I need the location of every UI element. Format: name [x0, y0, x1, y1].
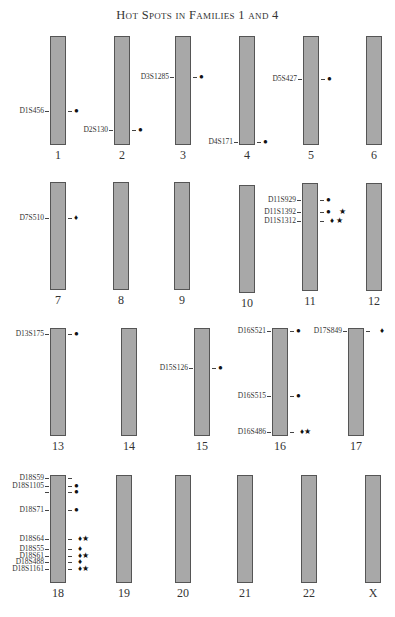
marker-tick-left	[45, 111, 49, 112]
marker-label: D16S515	[238, 392, 266, 400]
marker-tick-right	[68, 334, 72, 335]
marker-tick-right	[290, 331, 294, 332]
chromosome-10	[239, 185, 255, 293]
marker-symbols-icon: ●	[296, 327, 301, 335]
marker-tick-right	[193, 77, 197, 78]
chromosome-4	[239, 36, 255, 145]
marker-label: D3S1285	[141, 73, 169, 81]
chromosome-label: 12	[359, 294, 389, 309]
chromosome-label: 14	[114, 439, 144, 454]
marker-symbols-icon: ●	[138, 126, 143, 134]
chromosome-label: 6	[359, 148, 389, 163]
chromosome-1	[50, 36, 66, 145]
chromosome-2	[114, 36, 130, 145]
marker-tick-right	[290, 432, 294, 433]
marker-label: D5S427	[272, 75, 297, 83]
marker-tick-left	[45, 486, 49, 487]
chromosome-label: 4	[232, 148, 262, 163]
chromosome-label: 15	[187, 439, 217, 454]
marker-symbols-icon: ●	[74, 488, 79, 496]
marker-label: D18S1161	[12, 565, 44, 573]
chromosome-14	[121, 328, 137, 436]
marker-label: D11S1392	[264, 208, 296, 216]
chromosome-13	[50, 328, 66, 436]
marker-tick-right	[320, 221, 324, 222]
marker-label: D18S1105	[12, 482, 44, 490]
chromosome-17	[348, 328, 364, 436]
marker-tick-left	[109, 130, 113, 131]
marker-tick-left	[45, 492, 49, 493]
marker-tick-right	[68, 111, 72, 112]
marker-symbols-icon: ●	[218, 364, 223, 372]
marker-symbols-icon: ●	[326, 196, 331, 204]
marker-tick-left	[45, 562, 49, 563]
chromosome-8	[113, 182, 129, 290]
marker-symbols-icon: ♦★	[74, 565, 89, 573]
chromosome-label: 11	[295, 294, 325, 309]
marker-tick-left	[45, 510, 49, 511]
marker-label: D18S71	[19, 506, 44, 514]
chromosome-22	[301, 475, 317, 583]
marker-tick-left	[297, 221, 301, 222]
marker-tick-right	[68, 478, 72, 479]
chromosome-18	[50, 475, 66, 583]
marker-label: D1S456	[19, 107, 44, 115]
marker-symbols-icon: ♦ ★	[326, 217, 343, 225]
marker-symbols-icon: ♦	[74, 214, 78, 222]
chromosome-9	[174, 182, 190, 290]
marker-tick-right	[68, 492, 72, 493]
chromosome-21	[237, 475, 253, 583]
marker-tick-right	[68, 549, 72, 550]
marker-symbols-icon: ●	[74, 506, 79, 514]
chromosome-label: 22	[294, 586, 324, 601]
marker-label: D15S126	[160, 364, 188, 372]
marker-tick-right	[212, 368, 216, 369]
chromosome-label: 21	[230, 586, 260, 601]
marker-tick-right	[68, 218, 72, 219]
chromosome-16	[272, 328, 288, 436]
marker-symbols-icon: ●	[199, 73, 204, 81]
chromosome-label: 20	[168, 586, 198, 601]
chromosome-5	[303, 36, 319, 145]
chromosome-label: 19	[109, 586, 139, 601]
chromosome-6	[366, 36, 382, 145]
marker-label: D13S175	[16, 330, 44, 338]
marker-tick-right	[68, 562, 72, 563]
marker-tick-left	[45, 218, 49, 219]
figure-title: Hot Spots in Families 1 and 4	[0, 8, 395, 23]
marker-tick-left	[234, 142, 238, 143]
chromosome-19	[116, 475, 132, 583]
chromosome-label: X	[358, 586, 388, 601]
marker-tick-right	[132, 130, 136, 131]
marker-tick-left	[343, 331, 347, 332]
chromosome-7	[50, 182, 66, 290]
marker-tick-left	[298, 79, 302, 80]
marker-tick-right	[68, 486, 72, 487]
marker-tick-left	[267, 331, 271, 332]
chromosome-label: 7	[43, 293, 73, 308]
chromosome-label: 16	[265, 439, 295, 454]
marker-symbols-icon: ♦★	[296, 428, 311, 436]
chromosome-11	[302, 183, 318, 291]
chromosome-label: 3	[168, 148, 198, 163]
chromosome-label: 17	[341, 439, 371, 454]
marker-label: D4S171	[208, 138, 233, 146]
chromosome-20	[175, 475, 191, 583]
marker-symbols-icon: ●	[74, 330, 79, 338]
marker-tick-left	[297, 212, 301, 213]
marker-tick-right	[290, 396, 294, 397]
marker-label: D11S1312	[264, 217, 296, 225]
marker-tick-right	[257, 142, 261, 143]
marker-symbols-icon: ●	[74, 107, 79, 115]
marker-tick-right	[68, 556, 72, 557]
chromosome-15	[194, 328, 210, 436]
marker-tick-left	[45, 549, 49, 550]
marker-tick-left	[189, 368, 193, 369]
marker-symbols-icon: ● ★	[326, 208, 346, 216]
marker-tick-left	[45, 334, 49, 335]
marker-symbols-icon: ●	[296, 392, 301, 400]
marker-tick-right	[320, 200, 324, 201]
marker-label: D17S849	[314, 327, 342, 335]
marker-symbols-icon: ●	[263, 138, 268, 146]
marker-label: D11S929	[268, 196, 296, 204]
